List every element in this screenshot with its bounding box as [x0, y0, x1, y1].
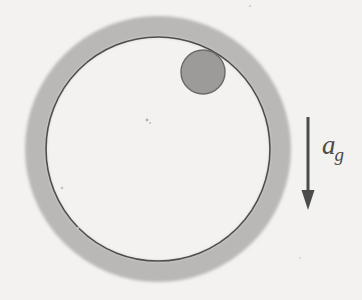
gravity-acceleration-label: ag: [322, 132, 344, 164]
paper-speck: [249, 5, 251, 7]
gravity-label-subscript: g: [335, 144, 345, 165]
ball-group: [181, 50, 225, 94]
physics-diagram-hoop-with-ball: ag: [0, 0, 362, 300]
paper-speck: [299, 257, 301, 259]
paper-speck: [61, 187, 64, 190]
paper-speck: [77, 227, 79, 229]
paper-speck: [146, 119, 149, 122]
diagram-canvas: [0, 0, 362, 300]
ball: [181, 50, 225, 94]
paper-speck: [149, 122, 151, 124]
gravity-label-base: a: [322, 130, 336, 160]
